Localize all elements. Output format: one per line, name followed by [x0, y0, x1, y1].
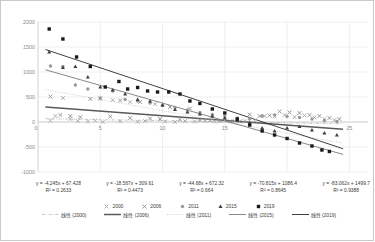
legend-marker-glyph: [105, 205, 109, 209]
data-point-square: [236, 117, 239, 120]
legend-marker-glyph: [181, 205, 184, 208]
equation-block-3: y = -44.68x + 672.32R² = 0.664: [179, 180, 224, 195]
x-axis-tick-label: 10: [160, 125, 166, 131]
data-point-triangle: [86, 75, 90, 79]
data-point-triangle: [136, 97, 140, 101]
data-point-circle: [181, 205, 184, 208]
legend-item-2000[interactable]: 2000: [103, 203, 123, 210]
data-point-square: [310, 144, 313, 147]
data-point-square: [256, 205, 259, 208]
y-axis-tick-label: 500: [26, 94, 35, 100]
legend-trendline-label: 线性 (2015): [248, 211, 274, 218]
data-point-circle: [260, 114, 263, 117]
data-point-square: [188, 99, 191, 102]
y-axis-tick-label: -1000: [21, 169, 35, 175]
equation-text: y = -83.062x + 1499.7: [322, 181, 370, 186]
legend-trendline-label: 线性 (2011): [186, 211, 211, 218]
legend-marker-glyph: [256, 205, 259, 208]
trendline-solid-thick-icon: [104, 212, 121, 217]
x-axis-tick-label: 5: [99, 125, 102, 131]
r-squared-text: R² = 0.2633: [36, 187, 81, 194]
legend-item-2006[interactable]: 2006: [141, 203, 161, 210]
data-point-square: [61, 37, 64, 40]
equation-text: y = -70.815x + 1086.4: [249, 181, 297, 186]
equation-text: y = -18.567x + 309.61: [106, 181, 154, 186]
legend-series-row: 20002006201120152019: [22, 203, 356, 210]
data-point-square: [156, 90, 159, 93]
data-point-square: [75, 55, 78, 58]
y-axis-tick-label: -500: [24, 144, 35, 150]
trendline-equations: y = -4.245x + 67.428R² = 0.2633y = -18.5…: [36, 180, 370, 204]
equation-block-2: y = -18.567x + 309.61R² = 0.4473: [106, 180, 154, 195]
y-axis-tick-label: 1000: [23, 69, 35, 75]
x-axis-tick-label: 15: [222, 125, 228, 131]
r-squared-text: R² = 0.664: [179, 187, 224, 194]
data-point-triangle: [260, 126, 264, 130]
data-point-circle: [298, 116, 301, 119]
series-2011: [49, 64, 339, 123]
legend-trendline-item-2006[interactable]: 线性 (2006): [104, 211, 149, 218]
data-point-square: [320, 148, 323, 151]
data-point-square: [89, 65, 92, 68]
legend-marker-glyph: [143, 205, 147, 209]
legend-item-2011[interactable]: 2011: [179, 203, 199, 210]
x-axis-tick-label: 25: [346, 125, 352, 131]
legend-trendline-label: 线性 (2006): [123, 211, 149, 218]
triangle-marker-icon: [217, 203, 224, 210]
data-point-circle: [285, 115, 288, 118]
data-point-circle: [74, 83, 77, 86]
legend-item-label: 2011: [188, 204, 199, 209]
data-point-circle: [310, 117, 313, 120]
equation-text: y = -4.245x + 67.428: [36, 181, 81, 186]
data-point-circle: [248, 117, 251, 120]
legend-item-label: 2019: [264, 204, 275, 209]
chart-legend: 20002006201120152019 线性 (2000)线性 (2006)线…: [22, 203, 356, 225]
legend-trendline-item-2000[interactable]: 线性 (2000): [42, 211, 87, 218]
legend-item-label: 2015: [226, 204, 237, 209]
equation-text: y = -44.68x + 672.32: [179, 181, 224, 186]
x-marker-icon: [103, 203, 110, 210]
legend-item-2019[interactable]: 2019: [255, 203, 275, 210]
data-point-triangle: [335, 133, 339, 137]
legend-trendline-item-2011[interactable]: 线性 (2011): [167, 211, 211, 218]
r-squared-text: R² = 0.4473: [106, 187, 154, 194]
data-point-triangle: [285, 126, 289, 130]
data-point-circle: [99, 96, 102, 99]
trendline-dash-dot-icon: [42, 212, 59, 217]
data-point-circle: [49, 64, 52, 67]
origin-tick-label: 0: [35, 125, 38, 131]
data-point-triangle: [322, 131, 326, 135]
data-point-square: [211, 107, 214, 110]
data-point-square: [167, 90, 170, 93]
series-2019: [48, 27, 332, 153]
data-point-square: [285, 137, 288, 140]
data-point-square: [248, 123, 251, 126]
data-point-circle: [86, 87, 89, 90]
legend-trendline-label: 线性 (2019): [311, 211, 337, 218]
legend-trendline-item-2019[interactable]: 线性 (2019): [292, 211, 337, 218]
equation-block-5: y = -83.062x + 1499.7R² = 0.9388: [322, 180, 370, 195]
legend-marker-glyph: [218, 204, 222, 208]
trendline-solid-icon: [229, 212, 246, 217]
legend-trendline-item-2015[interactable]: 线性 (2015): [229, 211, 274, 218]
data-point-triangle: [73, 64, 77, 68]
data-point-circle: [123, 98, 126, 101]
data-point-square: [198, 102, 201, 105]
data-point-square: [298, 141, 301, 144]
data-point-square: [136, 86, 139, 89]
legend-item-label: 2000: [112, 204, 123, 209]
equation-block-1: y = -4.245x + 67.428R² = 0.2633: [36, 180, 81, 195]
scatter-chart: 2000150010005000-500-100051015250 y = -4…: [0, 0, 375, 242]
data-point-square: [328, 150, 331, 153]
r-squared-text: R² = 0.8645: [249, 187, 297, 194]
data-point-circle: [323, 119, 326, 122]
trendline-solid-icon: [292, 212, 309, 217]
data-point-square: [260, 129, 263, 132]
legend-trendline-label: 线性 (2000): [61, 211, 87, 218]
data-point-square: [178, 92, 181, 95]
data-point-square: [146, 89, 149, 92]
data-point-square: [273, 133, 276, 136]
equation-block-4: y = -70.815x + 1086.4R² = 0.8645: [249, 180, 297, 195]
legend-item-2015[interactable]: 2015: [217, 203, 237, 210]
x-marker-icon: [141, 203, 148, 210]
